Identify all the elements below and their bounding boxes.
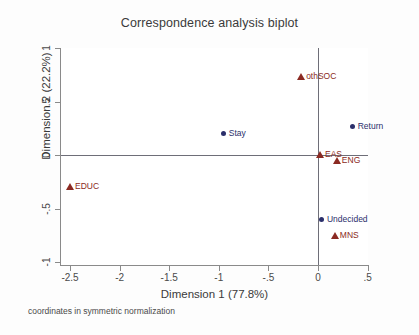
x-tick-label: -1.5 bbox=[161, 272, 178, 283]
data-point-label: MNS bbox=[340, 230, 359, 240]
circle-marker-icon bbox=[319, 217, 324, 222]
x-tick-mark bbox=[368, 266, 369, 271]
y-tick-mark bbox=[55, 155, 60, 156]
x-tick-label: .5 bbox=[363, 272, 371, 283]
circle-marker-icon bbox=[221, 131, 226, 136]
x-tick-mark bbox=[120, 266, 121, 271]
data-point-label: Undecided bbox=[327, 214, 368, 224]
x-tick-mark bbox=[318, 266, 319, 271]
data-point-label: Return bbox=[358, 121, 384, 131]
y-axis-label: Dimension 2 (22.2%) bbox=[40, 0, 52, 216]
x-axis-label: Dimension 1 (77.8%) bbox=[60, 288, 369, 300]
data-point-label: Stay bbox=[229, 128, 246, 138]
triangle-marker-icon bbox=[333, 157, 341, 164]
triangle-marker-icon bbox=[331, 232, 339, 239]
chart-title: Correspondence analysis biplot bbox=[0, 16, 419, 30]
data-point-label: othSOC bbox=[306, 71, 336, 81]
data-point-label: ENG bbox=[342, 155, 360, 165]
triangle-marker-icon bbox=[316, 151, 324, 158]
correspondence-analysis-biplot: Correspondence analysis biplot -2.5-2-1.… bbox=[0, 0, 419, 335]
y-tick-mark bbox=[55, 48, 60, 49]
screenshot-root: Correspondence analysis biplot -2.5-2-1.… bbox=[0, 0, 419, 335]
y-axis-spine bbox=[60, 48, 61, 266]
x-tick-mark bbox=[70, 266, 71, 271]
x-tick-label: -.5 bbox=[263, 272, 275, 283]
x-tick-mark bbox=[169, 266, 170, 271]
y-tick-mark bbox=[55, 262, 60, 263]
y-tick-label: -1 bbox=[41, 254, 52, 270]
x-tick-mark bbox=[219, 266, 220, 271]
y-tick-mark bbox=[55, 209, 60, 210]
x-tick-label: 0 bbox=[315, 272, 321, 283]
chart-footnote: coordinates in symmetric normalization bbox=[28, 306, 175, 316]
x-tick-label: -2.5 bbox=[61, 272, 78, 283]
circle-marker-icon bbox=[350, 124, 355, 129]
x-tick-label: -2 bbox=[115, 272, 124, 283]
x-tick-label: -1 bbox=[214, 272, 223, 283]
y-tick-mark bbox=[55, 102, 60, 103]
x-axis-spine bbox=[60, 265, 369, 266]
triangle-marker-icon bbox=[297, 73, 305, 80]
x-tick-mark bbox=[268, 266, 269, 271]
data-point-label: EDUC bbox=[75, 181, 99, 191]
triangle-marker-icon bbox=[66, 183, 74, 190]
